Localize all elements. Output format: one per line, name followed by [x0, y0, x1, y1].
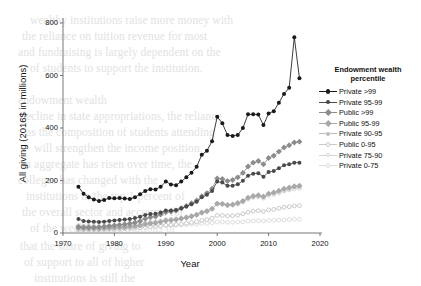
data-point	[195, 220, 199, 224]
data-point	[159, 185, 163, 189]
data-point	[287, 218, 291, 222]
data-point	[220, 220, 224, 224]
series-line	[78, 163, 299, 222]
legend-item-label: Private 90-95	[338, 129, 382, 138]
data-point	[184, 175, 188, 179]
data-point	[226, 220, 230, 224]
legend-item: Private 0-75	[318, 160, 418, 171]
data-point	[296, 139, 302, 145]
data-point	[210, 221, 214, 225]
legend-marker-icon	[318, 86, 338, 97]
y-tick-label: 400	[26, 123, 58, 132]
legend-item: Public 0-95	[318, 139, 418, 150]
data-point	[225, 184, 229, 188]
data-point	[118, 218, 122, 222]
data-point	[112, 196, 116, 200]
data-point	[204, 208, 210, 214]
data-point	[219, 201, 225, 207]
data-point	[291, 139, 297, 145]
data-point	[178, 216, 184, 222]
data-point	[246, 219, 250, 223]
legend-item-label: Public >99	[338, 108, 373, 117]
x-tick-label: 1990	[150, 239, 182, 248]
data-point	[164, 180, 168, 184]
chart-legend: Endowment wealth percentile Private >99P…	[318, 66, 418, 171]
y-tick-label: 0	[26, 228, 58, 237]
data-point	[183, 215, 189, 221]
data-point	[231, 214, 235, 218]
data-point	[76, 217, 80, 221]
data-point	[241, 220, 245, 224]
data-point	[292, 217, 296, 221]
data-point	[76, 185, 80, 189]
data-point	[194, 212, 200, 218]
data-point	[148, 212, 152, 216]
data-point	[205, 193, 209, 197]
x-tick-label: 2000	[201, 239, 233, 248]
data-point	[251, 219, 255, 223]
data-point	[123, 218, 127, 222]
data-point	[226, 214, 230, 218]
data-point	[246, 174, 250, 178]
legend-item-label: Private 75-90	[338, 151, 382, 160]
data-point	[190, 171, 194, 175]
data-point	[220, 121, 224, 125]
data-point	[179, 222, 183, 226]
data-point	[143, 189, 147, 193]
data-point	[195, 200, 199, 204]
legend-item: Private 75-90	[318, 150, 418, 161]
data-point	[246, 112, 250, 116]
data-point	[154, 187, 158, 191]
data-point	[251, 112, 255, 116]
data-point	[143, 213, 147, 217]
data-point	[298, 217, 302, 221]
data-point	[246, 210, 250, 214]
data-point	[169, 182, 173, 186]
data-point	[277, 206, 281, 210]
data-point	[102, 220, 106, 224]
data-point	[154, 212, 158, 216]
data-point	[282, 92, 286, 96]
y-tick-label: 600	[26, 71, 58, 80]
data-point	[272, 207, 276, 211]
legend-item-label: Private 95-99	[338, 98, 382, 107]
data-point	[87, 195, 91, 199]
series-line	[78, 142, 299, 228]
data-point	[298, 204, 302, 208]
data-point	[184, 221, 188, 225]
legend-items: Private >99Private 95-99Public >99Public…	[318, 86, 418, 171]
data-point	[241, 126, 245, 130]
data-point	[97, 220, 101, 224]
data-point	[184, 204, 188, 208]
legend-item-label: Private >99	[338, 87, 376, 96]
data-point	[225, 133, 229, 137]
legend-item: Private 95-99	[318, 97, 418, 108]
data-point	[267, 112, 271, 116]
data-point	[205, 218, 209, 222]
data-point	[169, 223, 173, 227]
legend-marker-icon	[318, 118, 338, 129]
data-point	[262, 219, 266, 223]
data-point	[169, 208, 173, 212]
data-point	[287, 205, 291, 209]
data-point	[287, 162, 291, 166]
data-point	[230, 201, 236, 207]
data-point	[231, 134, 235, 138]
data-point	[118, 196, 122, 200]
legend-marker-icon	[318, 97, 338, 108]
data-point	[292, 35, 296, 39]
legend-item-label: Private 0-75	[338, 161, 378, 170]
data-point	[123, 197, 127, 201]
legend-item: Private 90-95	[318, 129, 418, 140]
data-point	[255, 158, 261, 164]
data-point	[256, 113, 260, 117]
data-point	[220, 181, 224, 185]
data-point	[164, 223, 168, 227]
series-line	[78, 186, 299, 229]
figure-container: wealthy institutions raise more money wi…	[0, 0, 421, 286]
x-axis-title: Year	[150, 258, 230, 269]
data-point	[267, 208, 271, 212]
data-point	[292, 161, 296, 165]
data-point	[128, 217, 132, 221]
data-point	[102, 198, 106, 202]
